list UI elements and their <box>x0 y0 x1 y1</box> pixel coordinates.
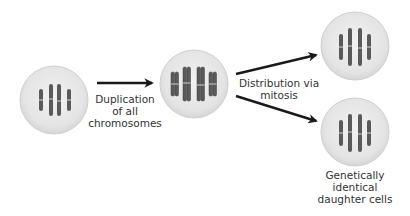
duplication-label-line-3: chromosomes <box>88 117 162 129</box>
parent-cell <box>20 66 88 134</box>
distribution-label: Distribution via mitosis <box>236 77 322 101</box>
daughter-label-line-3: daughter cells <box>315 193 395 205</box>
distribution-label-line-1: Distribution via <box>236 77 322 89</box>
distribution-arrow-up-icon <box>236 55 316 74</box>
daughter-label-line-1: Genetically <box>315 169 395 181</box>
duplicated-cell <box>160 50 228 118</box>
duplication-label-line-2: of all <box>88 105 162 117</box>
daughter-cell-2 <box>321 98 389 166</box>
distribution-label-line-2: mitosis <box>236 89 322 101</box>
daughter-label-line-2: identical <box>315 181 395 193</box>
daughter-cells-label: Genetically identical daughter cells <box>315 169 395 205</box>
duplication-label: Duplication of all chromosomes <box>88 93 162 129</box>
duplication-label-line-1: Duplication <box>88 93 162 105</box>
daughter-cell-1 <box>321 12 389 80</box>
